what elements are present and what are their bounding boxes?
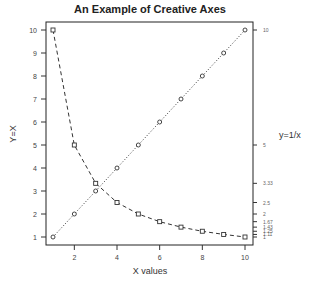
x-axis-label: X values (133, 266, 168, 276)
x-tick-label: 4 (115, 254, 119, 261)
square-marker (243, 235, 247, 239)
right-tick-label: 2.5 (263, 200, 270, 206)
square-marker (72, 143, 76, 147)
y-tick-label: 8 (33, 73, 37, 80)
y-tick-label: 9 (33, 50, 37, 57)
left-y-axis: 12345678910 (29, 27, 46, 241)
y-axis-label: Y=X (8, 125, 18, 142)
circle-marker (243, 28, 247, 32)
line-y-equals-x (53, 30, 245, 237)
right-tick-label: 1 (263, 234, 266, 240)
right-tick-label: 5 (263, 142, 266, 148)
circle-marker (72, 212, 76, 216)
y-tick-label: 5 (33, 142, 37, 149)
x-tick-label: 2 (72, 254, 76, 261)
y-tick-label: 6 (33, 119, 37, 126)
circle-marker (222, 51, 226, 55)
circle-marker (179, 97, 183, 101)
circle-marker (200, 74, 204, 78)
square-marker (222, 232, 226, 236)
y-tick-label: 2 (33, 211, 37, 218)
x-tick-label: 10 (241, 254, 249, 261)
right-tick-label: 2 (263, 211, 266, 217)
circle-marker (51, 235, 55, 239)
square-marker (136, 212, 140, 216)
chart: An Example of Creative Axes 12345678910 … (0, 0, 310, 288)
circle-marker (115, 166, 119, 170)
square-marker (179, 225, 183, 229)
y-tick-label: 10 (29, 27, 37, 34)
circle-marker (94, 189, 98, 193)
right-tick-label: 10 (263, 27, 269, 33)
x-tick-label: 8 (200, 254, 204, 261)
x-axis: 246810 (72, 245, 249, 261)
y-tick-label: 3 (33, 188, 37, 195)
square-marker (115, 201, 119, 205)
right-y-axis: 1053.332.521.671.431.251.111 (253, 27, 273, 240)
chart-title: An Example of Creative Axes (74, 3, 226, 15)
circle-marker (158, 120, 162, 124)
series-layer (51, 28, 247, 239)
y-tick-label: 1 (33, 234, 37, 241)
circle-marker (136, 143, 140, 147)
x-tick-label: 6 (158, 254, 162, 261)
right-y-axis-label: y=1/x (279, 130, 301, 140)
square-marker (200, 229, 204, 233)
square-marker (94, 181, 98, 185)
square-marker (158, 220, 162, 224)
y-tick-label: 4 (33, 165, 37, 172)
y-tick-label: 7 (33, 96, 37, 103)
square-marker (51, 28, 55, 32)
right-tick-label: 3.33 (263, 180, 273, 186)
